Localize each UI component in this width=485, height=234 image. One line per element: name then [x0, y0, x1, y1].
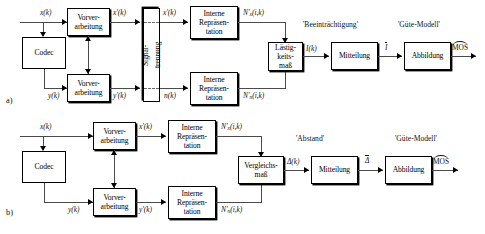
- wire-codec-to-pre-b: [44, 202, 93, 203]
- block-preprocessing-top-a: Vorver- arbeitung: [67, 8, 110, 36]
- annoyance-line1-a: Lästig-: [274, 43, 297, 52]
- block-signal-separation-label-a: Signal-trennung: [139, 42, 164, 68]
- block-averaging-label-a: Mitteilung: [338, 51, 371, 60]
- block-preprocessing-bottom-line2-b: arbeitung: [100, 202, 130, 211]
- panel-label-a: a): [6, 96, 13, 105]
- panel-label-b: b): [6, 208, 13, 217]
- arrowhead-sep-in-top-a: [135, 19, 140, 25]
- wire-sep-dashed-top-a: [144, 22, 159, 23]
- group-label-quality-model-a: 'Güte-Modell': [398, 20, 440, 29]
- arrowhead-mos-out-a: [471, 53, 476, 59]
- ir-bot-line2-b: Repräsen-: [176, 198, 208, 207]
- block-annoyance-measure-a: Lästig- keits- maß: [268, 42, 303, 71]
- wire-sep-dashed-bottom-a: [144, 88, 159, 89]
- signal-label-nx-b: N'x(i,k): [221, 122, 242, 131]
- signal-label-deltabar-b: Δ: [365, 156, 369, 165]
- group-label-quality-model-b: 'Güte-Modell': [395, 134, 437, 143]
- block-preprocessing-bottom-a: Vorver- arbeitung: [67, 74, 110, 102]
- signal-label-mos-b: MOS: [433, 156, 449, 166]
- arrowhead-pre-sync-down-a: [85, 69, 91, 74]
- wire-nn-up-a: [285, 70, 286, 88]
- block-averaging-label-b: Mitteilung: [318, 165, 351, 174]
- signal-label-xk-b: x(k): [40, 122, 51, 131]
- signal-label-yk-a: y(k): [48, 91, 59, 100]
- block-codec-a: Codec: [22, 37, 66, 69]
- signal-label-xprime-b: x'(k): [139, 122, 152, 131]
- group-label-distance-b: 'Abstand': [296, 134, 324, 143]
- signal-label-xprime-a: x'(k): [113, 8, 126, 17]
- block-codec-b: Codec: [22, 151, 66, 183]
- signal-label-xprime2-a: x'(k): [163, 8, 176, 17]
- arrowhead-pre-sync-up-a: [85, 36, 91, 41]
- ir-bot-line3-a: tation: [205, 93, 224, 102]
- annoyance-line3-a: maß: [278, 61, 293, 70]
- ir-top-line1-a: Interne: [203, 9, 226, 18]
- group-label-impairment-a: 'Beeinträchtigung': [303, 20, 358, 29]
- wire-codec-out-b: [44, 183, 45, 202]
- block-mapping-b: Abbildung: [385, 156, 432, 184]
- arrowhead-ir-top-in-a: [183, 19, 188, 25]
- block-preprocessing-top-line2-b: arbeitung: [100, 136, 130, 145]
- arrowhead-pre-sync-up-b: [111, 150, 117, 155]
- signal-label-nk-a: n(k): [164, 91, 176, 100]
- signal-label-ibar-a: I: [385, 43, 387, 52]
- ir-bot-line3-b: tation: [183, 207, 202, 216]
- wire-x-input-b: [20, 136, 93, 137]
- wire-codec-out-a: [44, 69, 45, 88]
- block-mapping-label-b: Abbildung: [392, 165, 426, 174]
- block-mapping-a: Abbildung: [404, 42, 451, 70]
- ir-bot-line1-b: Interne: [181, 189, 204, 198]
- signal-label-nn-b: N'n(i,k): [221, 205, 242, 214]
- figure-canvas: a) x(k) Codec y(k) Vorver- arbeitung Vor…: [0, 0, 485, 234]
- block-preprocessing-bottom-line1-b: Vorver-: [102, 193, 126, 202]
- comparison-line1-b: Vergleichs-: [243, 161, 278, 170]
- block-comparison-measure-b: Vergleichs- maß: [238, 156, 284, 184]
- block-codec-label-b: Codec: [34, 162, 55, 171]
- signal-label-yprime-b: y'(k): [139, 205, 152, 214]
- signal-label-nx-a: N'x(i,k): [243, 8, 264, 17]
- block-internal-representation-bottom-b: Interne Repräsen- tation: [168, 186, 216, 219]
- block-preprocessing-top-line1-a: Vorver-: [76, 13, 100, 22]
- block-preprocessing-bottom-line2-a: arbeitung: [74, 88, 104, 97]
- signal-label-deltak-b: Δ(k): [287, 157, 300, 166]
- arrowhead-mos-out-b: [453, 167, 458, 173]
- block-preprocessing-top-line1-b: Vorver-: [102, 127, 126, 136]
- signal-label-yprime-a: y'(k): [113, 91, 126, 100]
- ir-top-line2-b: Repräsen-: [176, 132, 208, 141]
- ir-bot-line1-a: Interne: [203, 75, 226, 84]
- arrowhead-sep-in-bot-a: [135, 85, 140, 91]
- block-preprocessing-bottom-b: Vorver- arbeitung: [93, 188, 136, 216]
- ir-top-line3-b: tation: [183, 141, 202, 150]
- signal-label-xk-a: x(k): [40, 8, 51, 17]
- block-codec-label-a: Codec: [34, 48, 55, 57]
- block-internal-representation-top-b: Interne Repräsen- tation: [168, 120, 216, 153]
- wire-nn-a: [238, 88, 286, 89]
- block-averaging-a: Mitteilung: [331, 42, 378, 70]
- arrowhead-pre-sync-down-b: [111, 183, 117, 188]
- arrowhead-averaging-in-b: [304, 167, 309, 173]
- annoyance-line2-a: keits-: [276, 52, 294, 61]
- arrowhead-mapping-in-a: [397, 53, 402, 59]
- block-preprocessing-top-line2-a: arbeitung: [74, 22, 104, 31]
- signal-label-mos-a: MOS: [452, 42, 468, 52]
- block-internal-representation-bottom-a: Interne Repräsen- tation: [190, 72, 238, 105]
- wire-nx-a: [238, 22, 286, 23]
- signal-label-ik-a: I(k): [306, 44, 317, 53]
- arrowhead-mapping-in-b: [378, 167, 383, 173]
- block-preprocessing-bottom-line1-a: Vorver-: [76, 79, 100, 88]
- wire-nn-up-b: [261, 184, 262, 202]
- block-internal-representation-top-a: Interne Repräsen- tation: [190, 6, 238, 39]
- signal-label-yk-b: y(k): [68, 205, 79, 214]
- arrowhead-ir-bot-in-a: [183, 85, 188, 91]
- block-preprocessing-top-b: Vorver- arbeitung: [93, 122, 136, 150]
- wire-nn-b: [216, 202, 262, 203]
- arrowhead-ir-top-in-b: [161, 133, 166, 139]
- comparison-line2-b: maß: [254, 170, 269, 179]
- arrowhead-ir-bot-in-b: [161, 199, 166, 205]
- arrowhead-averaging-in-a: [324, 53, 329, 59]
- block-averaging-b: Mitteilung: [311, 156, 358, 184]
- wire-nx-b: [216, 136, 262, 137]
- ir-top-line3-a: tation: [205, 27, 224, 36]
- signal-label-nn-a: N'n(i,k): [243, 91, 264, 100]
- ir-top-line2-a: Repräsen-: [198, 18, 230, 27]
